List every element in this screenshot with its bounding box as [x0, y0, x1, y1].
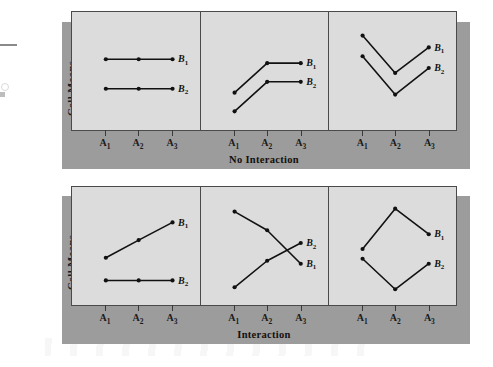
data-point-B2-A2[interactable]	[393, 93, 397, 97]
x-tick-bottom-p3-A2	[395, 305, 396, 311]
series-end-label-B2: B2	[177, 83, 189, 95]
plot-no-interaction-parallel-v-shape[interactable]: B1B2	[328, 12, 456, 130]
x-tick-top-p3-A1	[362, 130, 363, 136]
data-point-B1-A3[interactable]	[427, 45, 431, 49]
data-point-B1-A3[interactable]	[427, 232, 431, 236]
series-line-B2	[235, 243, 301, 287]
data-point-B1-A2[interactable]	[137, 238, 141, 242]
x-tick-top-p2-A3	[301, 130, 302, 136]
data-point-B2-A2[interactable]	[137, 87, 141, 91]
x-tick-label-top-p2-A2: A2	[261, 137, 272, 151]
data-point-B2-A3[interactable]	[170, 278, 174, 282]
data-point-B1-A2[interactable]	[265, 228, 269, 232]
data-point-B2-A2[interactable]	[265, 80, 269, 84]
data-point-B2-A3[interactable]	[427, 262, 431, 266]
caption-no-interaction: No Interaction	[71, 154, 457, 165]
x-tick-label-bottom-p2-A3: A3	[295, 312, 306, 326]
x-tick-top-p3-A3	[429, 130, 430, 136]
x-axis-labels-bottom: A1A2A3A1A2A3A1A2A3	[71, 312, 457, 326]
x-axis-labels-top: A1A2A3A1A2A3A1A2A3	[71, 137, 457, 151]
data-point-B2-A2[interactable]	[137, 278, 141, 282]
series-end-label-B1: B1	[433, 42, 445, 55]
x-tick-top-p3-A2	[395, 130, 396, 136]
series-line-B1	[363, 209, 429, 249]
x-tick-bottom-p1-A1	[105, 305, 106, 311]
data-point-B2-A3[interactable]	[299, 241, 303, 245]
series-end-label-B1: B1	[177, 217, 189, 229]
data-point-B2-A3[interactable]	[427, 66, 431, 70]
data-point-B2-A2[interactable]	[393, 287, 397, 291]
x-tick-top-p1-A2	[138, 130, 139, 136]
plot-no-interaction-parallel-rising[interactable]: B1B2	[200, 12, 328, 130]
data-point-B1-A3[interactable]	[170, 220, 174, 224]
data-point-B2-A1[interactable]	[233, 285, 237, 289]
x-tick-label-bottom-p1-A1: A1	[100, 312, 111, 326]
caption-interaction: Interaction	[71, 329, 457, 340]
x-tick-label-bottom-p3-A3: A3	[424, 312, 435, 326]
data-point-B1-A1[interactable]	[233, 91, 237, 95]
x-tick-top-p1-A1	[105, 130, 106, 136]
series-end-label-B2: B2	[177, 275, 189, 287]
data-point-B1-A3[interactable]	[299, 61, 303, 65]
plot-svg: B1B2	[72, 187, 200, 305]
x-axis-ticks-top	[71, 130, 457, 136]
plot-interaction-crossover[interactable]: B1B2	[200, 187, 328, 305]
data-point-B1-A1[interactable]	[233, 210, 237, 214]
data-point-B1-A1[interactable]	[361, 247, 365, 251]
x-tick-bottom-p3-A3	[429, 305, 430, 311]
series-end-label-B2: B2	[433, 258, 445, 271]
data-point-B1-A2[interactable]	[393, 207, 397, 211]
data-point-B1-A1[interactable]	[104, 256, 108, 260]
data-point-B1-A3[interactable]	[170, 57, 174, 61]
data-point-B1-A1[interactable]	[104, 57, 108, 61]
x-tick-label-bottom-p3-A1: A1	[357, 312, 368, 326]
data-point-B1-A3[interactable]	[299, 262, 303, 266]
x-tick-top-p1-A3	[172, 130, 173, 136]
data-point-B1-A2[interactable]	[137, 57, 141, 61]
x-tick-bottom-p3-A1	[362, 305, 363, 311]
data-point-B2-A1[interactable]	[233, 109, 237, 113]
plot-svg: B1B2	[72, 12, 200, 130]
x-tick-label-top-p3-A2: A2	[390, 137, 401, 151]
series-end-label-B1: B1	[177, 53, 189, 65]
plot-svg: B1B2	[329, 12, 456, 130]
page-margin-smudge-artifact	[0, 83, 9, 97]
data-point-B2-A3[interactable]	[299, 80, 303, 84]
plot-svg: B1B2	[201, 187, 328, 305]
series-line-B2	[363, 56, 429, 94]
x-tick-top-p2-A1	[234, 130, 235, 136]
series-end-label-B2: B2	[305, 237, 317, 250]
series-line-B1	[235, 212, 301, 264]
data-point-B2-A1[interactable]	[104, 87, 108, 91]
series-line-B2	[235, 82, 301, 112]
data-point-B2-A1[interactable]	[361, 257, 365, 261]
data-point-B1-A2[interactable]	[265, 61, 269, 65]
x-tick-bottom-p1-A2	[138, 305, 139, 311]
plot-interaction-opposing-v-shapes[interactable]: B1B2	[328, 187, 456, 305]
x-tick-label-top-p1-A2: A2	[133, 137, 144, 151]
data-point-B2-A3[interactable]	[170, 87, 174, 91]
data-point-B1-A2[interactable]	[393, 71, 397, 75]
x-tick-label-bottom-p1-A2: A2	[133, 312, 144, 326]
data-point-B2-A1[interactable]	[361, 54, 365, 58]
data-point-B2-A2[interactable]	[265, 259, 269, 263]
series-line-B2	[363, 259, 429, 289]
series-end-label-B1: B1	[305, 258, 317, 271]
data-point-B1-A1[interactable]	[361, 34, 365, 38]
x-tick-label-top-p1-A1: A1	[100, 137, 111, 151]
plot-svg: B1B2	[329, 187, 456, 305]
series-end-label-B1: B1	[305, 57, 317, 70]
series-end-label-B1: B1	[433, 228, 445, 241]
x-tick-label-bottom-p3-A2: A2	[390, 312, 401, 326]
x-tick-top-p2-A2	[267, 130, 268, 136]
x-tick-label-bottom-p1-A3: A3	[167, 312, 178, 326]
plot-strip-interaction: B1B2 B1B2 B1B2	[71, 186, 457, 306]
series-line-B1	[235, 63, 301, 92]
plot-no-interaction-parallel-flat[interactable]: B1B2	[72, 12, 200, 130]
x-tick-bottom-p2-A3	[301, 305, 302, 311]
x-axis-ticks-bottom	[71, 305, 457, 311]
x-tick-bottom-p2-A1	[234, 305, 235, 311]
data-point-B2-A1[interactable]	[104, 278, 108, 282]
plot-interaction-diverging-slopes[interactable]: B1B2	[72, 187, 200, 305]
x-tick-label-bottom-p2-A2: A2	[261, 312, 272, 326]
